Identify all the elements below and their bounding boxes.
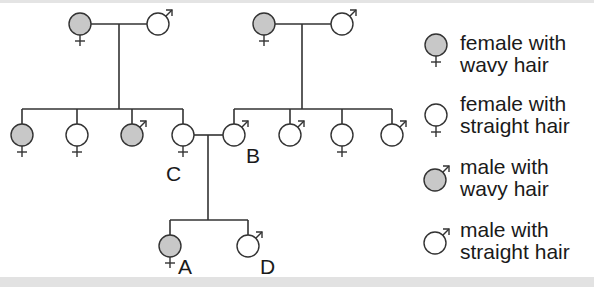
male-straight-individual-b [223, 121, 248, 146]
female-wavy-grandmother-right [253, 13, 275, 46]
female-wavy-grandmother-left [69, 13, 91, 46]
legend-line-2: wavy hair [460, 54, 566, 76]
legend-line-2: straight hair [460, 115, 570, 137]
legend-item-male-straight: male with straight hair [460, 219, 570, 263]
male-straight-grandfather-right [331, 10, 356, 35]
legend-line-2: straight hair [460, 241, 570, 263]
legend-line-1: male with [460, 156, 549, 178]
male-straight-individual-d [237, 232, 262, 257]
label-b: B [246, 145, 260, 166]
legend-female-straight-icon [425, 104, 447, 137]
legend-line-1: female with [460, 93, 570, 115]
male-straight-grandfather-left [147, 10, 172, 35]
legend-item-male-wavy: male with wavy hair [460, 156, 549, 200]
legend-male-wavy-icon [424, 166, 449, 191]
legend-line-1: female with [460, 32, 566, 54]
label-d: D [260, 256, 275, 277]
bottom-border-strip [0, 277, 594, 287]
female-wavy-child-1 [11, 124, 33, 157]
male-straight-child-6 [279, 121, 304, 146]
legend-female-wavy-icon [425, 34, 447, 67]
label-c: C [166, 163, 181, 184]
male-wavy-child-3 [121, 121, 146, 146]
female-straight-child-7 [331, 124, 353, 157]
label-a: A [178, 256, 192, 277]
female-straight-child-2 [66, 124, 88, 157]
legend-male-straight-icon [424, 229, 449, 254]
legend-line-1: male with [460, 219, 570, 241]
legend-item-female-wavy: female with wavy hair [460, 32, 566, 76]
legend-item-female-straight: female with straight hair [460, 93, 570, 137]
legend-line-2: wavy hair [460, 178, 549, 200]
female-straight-individual-c [172, 124, 194, 157]
male-straight-child-8 [381, 121, 406, 146]
